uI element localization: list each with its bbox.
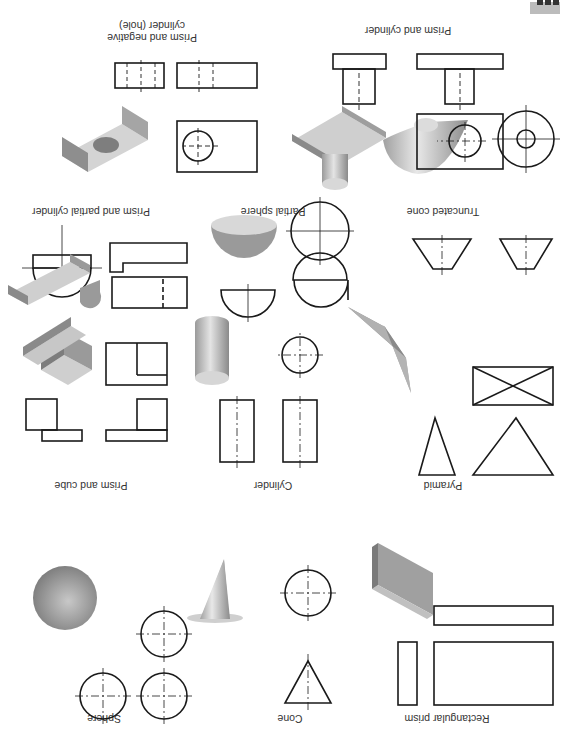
diagram-canvas: Rectangular prism Cone Sphere Pyramid Cy… <box>0 0 568 740</box>
partial-sphere-drawings <box>211 197 354 322</box>
prism-and-cube-drawings <box>23 317 167 441</box>
sphere-drawings <box>33 566 192 724</box>
prism-and-negative-cylinder-drawings <box>62 59 257 172</box>
cone-drawings <box>187 559 336 710</box>
cylinder-drawings <box>195 316 323 468</box>
prism-and-partial-cylinder-drawings <box>8 225 187 308</box>
pyramid-drawings <box>348 307 553 475</box>
rectangular-prism-drawings <box>372 543 553 705</box>
prism-and-cylinder-drawings <box>292 54 503 190</box>
drawings-svg <box>0 0 568 740</box>
truncated-cone-drawings <box>383 105 560 275</box>
